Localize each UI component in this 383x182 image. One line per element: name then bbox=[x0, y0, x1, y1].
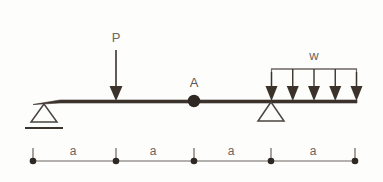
dimension-label-2: a bbox=[150, 144, 157, 158]
dimension-label-3: a bbox=[228, 144, 235, 158]
dimension-label-4: a bbox=[310, 144, 317, 158]
support-right-triangle bbox=[258, 102, 284, 121]
distributed-load-arrow bbox=[266, 72, 278, 101]
distributed-load-label: w bbox=[308, 48, 319, 63]
support-right-pin bbox=[258, 102, 284, 121]
point-load-p: P bbox=[110, 30, 123, 101]
dimension-line: a a a a bbox=[30, 144, 359, 164]
dimension-node bbox=[30, 148, 37, 164]
dimension-node bbox=[113, 148, 120, 164]
support-left-roller bbox=[25, 104, 63, 128]
internal-hinge-a: A bbox=[188, 75, 200, 107]
dimension-node bbox=[268, 148, 275, 164]
dimension-node bbox=[352, 148, 359, 164]
hinge-label-a: A bbox=[190, 75, 199, 90]
distributed-load-w: w bbox=[266, 48, 363, 101]
hinge-circle bbox=[188, 95, 200, 107]
distributed-load-arrow bbox=[329, 69, 341, 101]
distributed-load-arrow bbox=[287, 69, 299, 101]
distributed-load-arrow bbox=[308, 69, 320, 101]
dimension-label-1: a bbox=[70, 144, 77, 158]
beam-diagram-canvas: A P bbox=[0, 0, 383, 182]
support-left-triangle bbox=[31, 104, 57, 122]
point-load-label: P bbox=[112, 30, 121, 45]
distributed-load-arrow bbox=[351, 72, 363, 101]
point-load-arrowhead bbox=[110, 86, 123, 101]
dimension-node bbox=[191, 148, 198, 164]
beam-diagram-svg: A P bbox=[0, 0, 383, 182]
